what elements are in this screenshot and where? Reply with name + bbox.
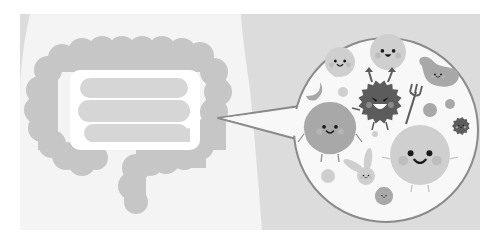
illustration-canvas	[0, 0, 503, 245]
smiley-round-left	[325, 47, 355, 77]
smiley-round-top	[370, 34, 406, 70]
gut-microbiome-illustration	[0, 0, 503, 245]
small-intestine	[70, 70, 200, 150]
small-flower-bacteria	[375, 187, 393, 205]
